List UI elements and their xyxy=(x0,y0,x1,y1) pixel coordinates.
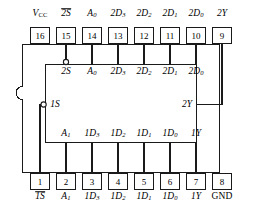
pin-number-15: 15 xyxy=(62,31,71,40)
pin-number-1: 1 xyxy=(38,177,43,186)
pin-label-4: 1D2 xyxy=(110,192,125,202)
pin-label-13: 2D3 xyxy=(110,9,125,19)
pin-label-2: A1 xyxy=(61,192,70,202)
pin-label-8-text: GND xyxy=(212,191,233,201)
pin-label-9: 2Y xyxy=(217,9,227,19)
inner-label-1D0: 1D0 xyxy=(162,129,177,139)
inversion-bubble-1S xyxy=(41,102,46,107)
pin-number-4: 4 xyxy=(116,177,121,186)
inner-label-2D2: 2D2 xyxy=(136,67,151,77)
pin-number-6: 6 xyxy=(168,177,173,186)
inner-label-2D2-text: 2D2 xyxy=(136,66,151,76)
pin-number-9: 9 xyxy=(220,31,225,40)
pin-number-2: 2 xyxy=(64,177,69,186)
pin-number-10: 10 xyxy=(192,31,201,40)
inner-label-2D1-text: 2D1 xyxy=(162,66,177,76)
pin-label-1-text: 1S xyxy=(35,191,45,201)
pin-label-15: 2S xyxy=(61,9,71,19)
inner-label-1S: 1S xyxy=(50,100,60,110)
pin-label-5-text: 1D1 xyxy=(136,191,151,201)
inner-label-2D0: 2D0 xyxy=(188,67,203,77)
pin-label-16-text: VCC xyxy=(33,8,48,18)
inner-label-2Y: 2Y xyxy=(182,100,192,110)
pin-number-7: 7 xyxy=(194,177,199,186)
inner-label-1Y: 1Y xyxy=(191,129,201,139)
pin-label-3: 1D3 xyxy=(84,192,99,202)
pin-number-14: 14 xyxy=(88,31,97,40)
inner-label-1D3: 1D3 xyxy=(84,129,99,139)
pin-label-9-text: 2Y xyxy=(217,8,227,18)
pin-label-8: GND xyxy=(212,192,233,202)
inner-label-2D0-text: 2D0 xyxy=(188,66,203,76)
pin-label-7-text: 1Y xyxy=(191,191,201,201)
pin-number-13: 13 xyxy=(114,31,123,40)
inner-label-A1-text: A1 xyxy=(61,128,70,138)
pin-label-2-text: A1 xyxy=(61,191,70,201)
inner-label-2D3-text: 2D3 xyxy=(110,66,125,76)
pin-number-16: 16 xyxy=(36,31,45,40)
pin-label-6-text: 1D0 xyxy=(162,191,177,201)
pin-label-14: A0 xyxy=(87,9,96,19)
inner-label-1D3-text: 1D3 xyxy=(84,128,99,138)
pin-label-4-text: 1D2 xyxy=(110,191,125,201)
pin-number-8: 8 xyxy=(220,177,225,186)
inner-label-2D3: 2D3 xyxy=(110,67,125,77)
pin-label-5: 1D1 xyxy=(136,192,151,202)
package-outline-left-with-notch xyxy=(16,45,23,173)
pin-number-5: 5 xyxy=(142,177,147,186)
pin-label-12-text: 2D2 xyxy=(136,8,151,18)
pin-label-12: 2D2 xyxy=(136,9,151,19)
inner-label-1D1: 1D1 xyxy=(136,129,151,139)
pin-label-7: 1Y xyxy=(191,192,201,202)
pin-label-16: VCC xyxy=(33,9,48,19)
inner-label-2D1: 2D1 xyxy=(162,67,177,77)
inner-label-1D1-text: 1D1 xyxy=(136,128,151,138)
pin-number-11: 11 xyxy=(166,31,175,40)
pin-number-3: 3 xyxy=(90,177,95,186)
pin-number-12: 12 xyxy=(140,31,149,40)
inner-label-A0: A0 xyxy=(87,67,96,77)
pin-label-11: 2D1 xyxy=(162,9,177,19)
inner-label-A1: A1 xyxy=(61,129,70,139)
inner-label-1D2: 1D2 xyxy=(110,129,125,139)
inner-label-1Y-text: 1Y xyxy=(191,128,201,138)
pin-label-13-text: 2D3 xyxy=(110,8,125,18)
inner-label-2S: 2S xyxy=(61,67,71,77)
pin-label-6: 1D0 xyxy=(162,192,177,202)
inner-label-1S-text: 1S xyxy=(50,99,60,109)
inner-label-1D0-text: 1D0 xyxy=(162,128,177,138)
pin-label-15-text: 2S xyxy=(61,8,71,18)
pin-label-10-text: 2D0 xyxy=(188,8,203,18)
inner-label-2Y-text: 2Y xyxy=(182,99,192,109)
inner-label-A0-text: A0 xyxy=(87,66,96,76)
inner-label-2S-text: 2S xyxy=(61,66,71,76)
pin-label-3-text: 1D3 xyxy=(84,191,99,201)
chip-pinout-figure: VCC 2S A0 2D3 2D2 2D1 2D0 2Y 16 15 14 13… xyxy=(0,0,253,206)
lead-pin1-to-1S xyxy=(40,105,42,174)
inversion-bubble-2S xyxy=(63,59,68,64)
pin-label-10: 2D0 xyxy=(188,9,203,19)
pin-label-1: 1S xyxy=(35,192,45,202)
pin-label-14-text: A0 xyxy=(87,8,96,18)
inner-label-1D2-text: 1D2 xyxy=(110,128,125,138)
pin-label-11-text: 2D1 xyxy=(162,8,177,18)
